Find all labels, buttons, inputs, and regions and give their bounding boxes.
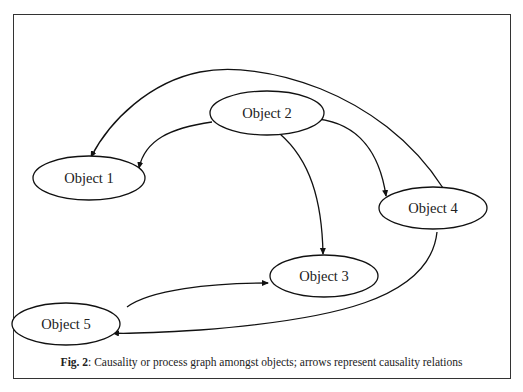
node-label: Object 1	[64, 170, 114, 186]
edge-object5-to-object3	[127, 283, 268, 307]
node-label: Object 5	[41, 316, 91, 332]
node-label: Object 3	[299, 268, 349, 284]
edge-object2-to-object4	[318, 119, 386, 196]
caption-text: : Causality or process graph amongst obj…	[88, 356, 462, 368]
node-object2: Object 2	[210, 91, 324, 135]
edge-object2-to-object1	[139, 122, 212, 168]
node-object4: Object 4	[379, 187, 487, 229]
node-object1: Object 1	[33, 156, 145, 200]
node-object3: Object 3	[270, 255, 378, 297]
causality-graph: Object 1 Object 2 Object 3 Object 4 Obje…	[0, 0, 523, 392]
node-label: Object 4	[408, 200, 458, 216]
node-object5: Object 5	[12, 303, 120, 345]
figure-caption: Fig. 2: Causality or process graph among…	[0, 356, 523, 368]
node-label: Object 2	[242, 105, 292, 121]
caption-label: Fig. 2	[61, 356, 88, 368]
edge-object2-to-object3	[280, 134, 323, 254]
